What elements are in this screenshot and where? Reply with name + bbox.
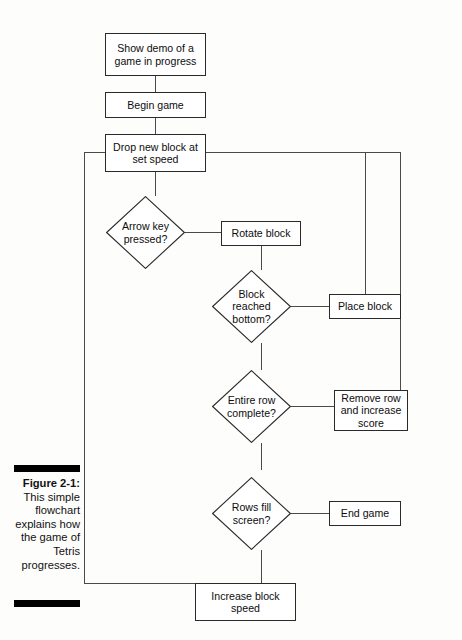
edge-increase-speed-return-horizontal (84, 583, 195, 584)
node-remove-row[interactable]: Remove row and increase score (334, 390, 408, 431)
edge-rows-fill-to-end-game (291, 513, 329, 514)
edge-row-complete-to-rows-fill (261, 443, 262, 470)
node-row-complete-decision[interactable]: Entire row complete? (212, 370, 291, 443)
node-remove-row-label: Remove row and increase score (335, 392, 407, 429)
node-begin-game-label: Begin game (127, 99, 184, 111)
edge-remove-row-return-vertical (400, 152, 401, 390)
node-increase-speed[interactable]: Increase block speed (195, 583, 296, 621)
node-end-game-label: End game (341, 507, 389, 519)
node-row-complete-label: Entire row complete? (221, 394, 283, 419)
node-rotate-block-label: Rotate block (232, 227, 291, 239)
node-show-demo-label: Show demo of a game in progress (106, 42, 205, 67)
node-begin-game[interactable]: Begin game (105, 92, 206, 118)
figure-caption: Figure 2-1: This simple flowchart explai… (4, 477, 80, 572)
caption-rule-top (14, 465, 80, 472)
edge-drop-block-to-arrow-key (155, 172, 156, 196)
node-show-demo[interactable]: Show demo of a game in progress (105, 33, 206, 76)
node-rows-fill-label: Rows fill screen? (221, 501, 283, 526)
node-drop-block[interactable]: Drop new block at set speed (105, 134, 206, 172)
edge-place-block-return-vertical (365, 152, 366, 297)
edge-left-return-vertical (84, 152, 85, 584)
figure-caption-text: This simple flowchart explains how the g… (15, 491, 80, 571)
node-arrow-key-decision[interactable]: Arrow key pressed? (106, 196, 185, 269)
edge-block-bottom-to-place-block (291, 306, 329, 307)
edge-block-bottom-to-row-complete (261, 343, 262, 370)
edge-arrow-key-to-rotate-block (185, 232, 221, 233)
node-rows-fill-decision[interactable]: Rows fill screen? (212, 477, 291, 550)
edge-rows-fill-to-increase-speed (261, 550, 262, 583)
edge-left-return-into-drop-block (84, 152, 105, 153)
node-rotate-block[interactable]: Rotate block (221, 221, 301, 246)
edge-show-demo-to-begin-game (155, 76, 156, 92)
edge-row-complete-to-remove-row (291, 406, 334, 407)
node-place-block-label: Place block (338, 300, 392, 312)
node-block-bottom-label: Block reached bottom? (221, 288, 283, 325)
node-drop-block-label: Drop new block at set speed (106, 141, 205, 166)
node-increase-speed-label: Increase block speed (196, 590, 295, 615)
figure-number: Figure 2-1: (4, 477, 80, 491)
edge-rail-top-horizontal (206, 152, 401, 153)
node-block-bottom-decision[interactable]: Block reached bottom? (212, 270, 291, 343)
edge-rotate-block-to-block-bottom (261, 246, 262, 270)
node-arrow-key-label: Arrow key pressed? (115, 220, 177, 245)
node-place-block[interactable]: Place block (329, 294, 401, 319)
node-end-game[interactable]: End game (329, 501, 401, 526)
page-canvas: Figure 2-1: This simple flowchart explai… (0, 0, 462, 640)
edge-begin-game-to-drop-block (155, 118, 156, 134)
caption-rule-bottom (14, 600, 80, 607)
